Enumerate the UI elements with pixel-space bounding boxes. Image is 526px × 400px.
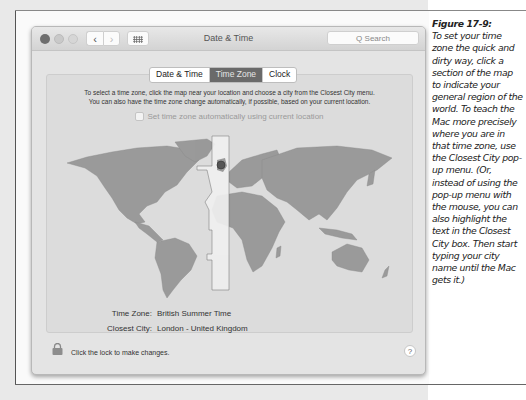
closest-city-value[interactable]: London - United Kingdom — [157, 324, 248, 333]
lock-message: Click the lock to make changes. — [71, 349, 169, 356]
title-bar: ‹ › Date & Time Q Search — [32, 27, 425, 51]
bottom-rule — [15, 384, 526, 385]
time-zone-row: Time Zone:British Summer Time — [47, 309, 231, 318]
new-zealand — [382, 266, 389, 278]
instructions-line-2: You can also have the time zone change a… — [47, 97, 412, 106]
help-button[interactable]: ? — [404, 345, 416, 357]
indonesia — [319, 228, 357, 240]
instructions: To select a time zone, click the map nea… — [47, 88, 412, 106]
time-zone-label: Time Zone: — [47, 309, 152, 318]
central-america — [135, 222, 163, 242]
tab-bar: Date & Time Time Zone Clock — [149, 67, 297, 83]
search-input[interactable]: Q Search — [327, 31, 419, 45]
madagascar — [276, 246, 281, 258]
tab-clock[interactable]: Clock — [263, 68, 296, 82]
auto-timezone-label: Set time zone automatically using curren… — [147, 112, 323, 121]
closest-city-label: Closest City: — [47, 324, 152, 333]
tab-time-zone[interactable]: Time Zone — [210, 68, 263, 82]
auto-timezone-row[interactable]: Set time zone automatically using curren… — [47, 112, 412, 121]
south-america — [155, 238, 197, 298]
instructions-line-1: To select a time zone, click the map nea… — [47, 88, 412, 97]
figure-caption: Figure 17-9: To set your time zone the q… — [432, 18, 524, 286]
figure-label: Figure 17-9: — [432, 18, 524, 30]
date-time-window: ‹ › Date & Time Q Search Date & Time Tim… — [31, 26, 426, 375]
tab-date-time[interactable]: Date & Time — [150, 68, 210, 82]
closest-city-row: Closest City:London - United Kingdom — [47, 324, 248, 333]
world-map[interactable] — [57, 130, 402, 300]
north-america — [67, 146, 199, 224]
time-zone-pane: To select a time zone, click the map nea… — [46, 74, 413, 333]
caption-text: To set your time zone the quick and dirt… — [432, 30, 523, 285]
top-rule — [15, 10, 526, 11]
location-marker — [217, 161, 225, 169]
lock-icon[interactable] — [52, 343, 63, 355]
australia — [332, 244, 369, 272]
auto-timezone-checkbox[interactable] — [135, 112, 144, 121]
time-zone-value: British Summer Time — [157, 309, 231, 318]
